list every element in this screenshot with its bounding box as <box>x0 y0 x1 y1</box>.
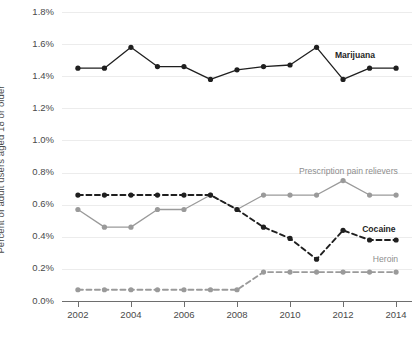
series-label-cocaine: Cocaine <box>362 224 396 234</box>
data-point <box>340 270 345 275</box>
series-line <box>78 181 396 228</box>
data-point <box>155 207 160 212</box>
data-point <box>287 270 292 275</box>
x-tick-label: 2004 <box>120 309 141 320</box>
y-tick-label: 0.2% <box>32 262 54 273</box>
data-point <box>75 66 80 71</box>
data-point <box>287 236 292 241</box>
data-point <box>128 45 133 50</box>
data-point <box>75 192 80 197</box>
axes <box>62 302 412 307</box>
line-chart-plot: 0.0%0.2%0.4%0.6%0.8%1.0%1.2%1.4%1.6%1.8%… <box>0 0 418 339</box>
x-tick-label: 2012 <box>332 309 353 320</box>
data-point <box>393 237 398 242</box>
y-tick-label: 0.0% <box>32 295 54 306</box>
data-point <box>128 287 133 292</box>
data-point <box>75 287 80 292</box>
data-point <box>367 192 372 197</box>
data-point <box>340 178 345 183</box>
data-point <box>261 225 266 230</box>
data-point <box>181 207 186 212</box>
x-axis-tick-labels: 2002200420062008201020122014 <box>67 309 406 320</box>
y-tick-label: 1.8% <box>32 6 54 17</box>
y-axis-tick-labels: 0.0%0.2%0.4%0.6%0.8%1.0%1.2%1.4%1.6%1.8% <box>32 6 54 306</box>
y-tick-label: 1.2% <box>32 102 54 113</box>
data-point <box>102 225 107 230</box>
data-point <box>155 192 160 197</box>
y-tick-label: 0.6% <box>32 198 54 209</box>
x-tick-label: 2014 <box>386 309 407 320</box>
data-point <box>340 228 345 233</box>
data-point <box>314 270 319 275</box>
data-point <box>181 287 186 292</box>
chart-container: Percent of adult users aged 18 or older … <box>0 0 418 339</box>
data-point <box>208 77 213 82</box>
data-point <box>128 225 133 230</box>
data-point <box>181 64 186 69</box>
data-point <box>102 66 107 71</box>
data-point <box>208 192 213 197</box>
data-point <box>367 66 372 71</box>
data-point <box>314 257 319 262</box>
x-tick-label: 2002 <box>67 309 88 320</box>
data-point <box>128 192 133 197</box>
data-point <box>102 192 107 197</box>
x-tick-label: 2006 <box>173 309 194 320</box>
data-point <box>314 192 319 197</box>
data-point <box>287 192 292 197</box>
data-point <box>261 64 266 69</box>
data-point <box>234 287 239 292</box>
data-point <box>314 45 319 50</box>
series-label-heroin: Heroin <box>373 254 399 264</box>
data-point <box>287 62 292 67</box>
data-point <box>367 237 372 242</box>
series-heroin <box>75 270 398 293</box>
series-line <box>78 272 396 290</box>
data-point <box>367 270 372 275</box>
data-point <box>155 287 160 292</box>
data-point <box>234 207 239 212</box>
series-prescription-pain-relievers <box>75 178 398 230</box>
data-point <box>393 270 398 275</box>
y-tick-label: 1.0% <box>32 134 54 145</box>
x-tick-label: 2008 <box>226 309 247 320</box>
y-tick-label: 1.6% <box>32 38 54 49</box>
series-label-prescription-pain-relievers: Prescription pain relievers <box>299 166 398 176</box>
data-point <box>75 207 80 212</box>
data-point <box>234 67 239 72</box>
data-point <box>208 287 213 292</box>
data-point <box>181 192 186 197</box>
x-tick-label: 2010 <box>279 309 300 320</box>
data-point <box>340 77 345 82</box>
y-tick-label: 0.8% <box>32 166 54 177</box>
series-label-marijuana: Marijuana <box>335 50 375 60</box>
data-point <box>261 270 266 275</box>
data-point <box>102 287 107 292</box>
y-tick-label: 1.4% <box>32 70 54 81</box>
data-point <box>261 192 266 197</box>
y-tick-label: 0.4% <box>32 230 54 241</box>
data-point <box>155 64 160 69</box>
data-point <box>393 66 398 71</box>
data-point <box>393 192 398 197</box>
